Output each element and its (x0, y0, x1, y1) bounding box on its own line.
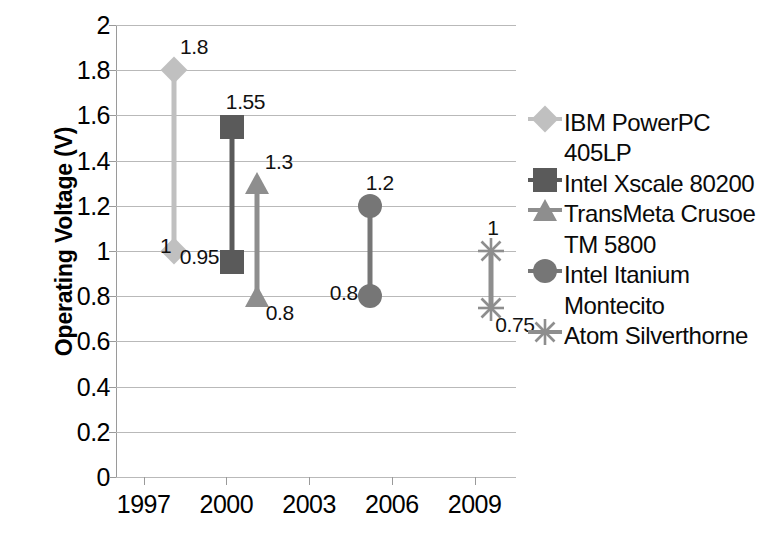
y-tick-mark (109, 251, 116, 252)
circle-marker-icon (533, 259, 557, 283)
data-label: 0.8 (266, 302, 294, 323)
series-range-line (254, 183, 259, 296)
y-tick-label: 0 (58, 465, 110, 490)
y-tick-mark (109, 206, 116, 207)
x-tick-mark (309, 477, 310, 485)
data-label: 1.3 (265, 151, 293, 172)
square-icon (528, 178, 562, 198)
series-range-line (171, 70, 176, 251)
plot-area: 1.811.550.951.30.81.20.810.75 (116, 25, 516, 477)
legend-label: IBM PowerPC 405LP (564, 108, 772, 169)
y-axis-tick-labels: 00.20.40.60.811.21.41.61.82 (50, 0, 110, 552)
data-label: 1 (487, 217, 498, 238)
y-tick-mark (109, 115, 116, 116)
legend-label: Intel Itanium Montecito (564, 260, 772, 321)
y-tick-label: 0.4 (58, 374, 110, 399)
triangle-marker-icon (244, 171, 270, 195)
legend-entry[interactable]: Intel Xscale 80200 (528, 169, 772, 199)
y-tick-mark (109, 161, 116, 162)
x-tick-mark (226, 477, 227, 485)
gridline (116, 432, 516, 433)
y-tick-label: 0.6 (58, 329, 110, 354)
y-tick-mark (109, 70, 116, 71)
gridline (116, 341, 516, 342)
square-marker-icon (220, 115, 244, 139)
y-tick-label: 1 (58, 239, 110, 264)
y-tick-mark (109, 341, 116, 342)
y-tick-label: 1.4 (58, 148, 110, 173)
y-tick-mark (109, 387, 116, 388)
legend-label: TransMeta Crusoe TM 5800 (564, 199, 772, 260)
legend-entry[interactable]: TransMeta Crusoe TM 5800 (528, 199, 772, 260)
asterisk-marker-icon (477, 237, 505, 265)
x-tick-label: 2000 (200, 492, 254, 517)
asterisk-marker-icon (531, 318, 559, 346)
y-tick-label: 0.8 (58, 284, 110, 309)
gridline (116, 387, 516, 388)
x-tick-mark (392, 477, 393, 485)
y-tick-label: 1.6 (58, 103, 110, 128)
x-tick-label: 2003 (282, 492, 336, 517)
data-label: 1 (160, 235, 171, 256)
circle-icon (528, 269, 562, 289)
circle-marker-icon (358, 194, 382, 218)
y-tick-label: 1.8 (58, 58, 110, 83)
y-tick-mark (109, 296, 116, 297)
diamond-icon (528, 117, 562, 137)
asterisk-icon (528, 330, 562, 350)
x-tick-label: 1997 (117, 492, 171, 517)
legend-label: Intel Xscale 80200 (564, 169, 772, 199)
circle-marker-icon (358, 284, 382, 308)
gridline (116, 296, 516, 297)
data-label: 0.8 (330, 282, 358, 303)
y-tick-label: 0.2 (58, 419, 110, 444)
chart-legend: IBM PowerPC 405LPIntel Xscale 80200Trans… (528, 108, 772, 352)
square-marker-icon (220, 250, 244, 274)
x-tick-label: 2009 (448, 492, 502, 517)
triangle-marker-icon (532, 198, 558, 222)
y-tick-label: 1.2 (58, 193, 110, 218)
legend-entry[interactable]: Intel Itanium Montecito (528, 260, 772, 321)
x-tick-mark (144, 477, 145, 485)
y-tick-mark (109, 477, 116, 478)
data-label: 1.8 (180, 36, 208, 57)
x-tick-mark (475, 477, 476, 485)
voltage-scaling-chart: Operating Voltage (V) 00.20.40.60.811.21… (0, 0, 772, 552)
data-label: 1.55 (226, 91, 265, 112)
y-tick-label: 2 (58, 13, 110, 38)
series-range-line (367, 206, 372, 296)
y-tick-mark (109, 432, 116, 433)
legend-entry[interactable]: IBM PowerPC 405LP (528, 108, 772, 169)
diamond-marker-icon (160, 57, 187, 84)
y-tick-mark (109, 25, 116, 26)
x-tick-label: 2006 (365, 492, 419, 517)
triangle-icon (528, 208, 562, 228)
legend-label: Atom Silverthorne (564, 321, 772, 351)
data-label: 1.2 (366, 172, 394, 193)
diamond-marker-icon (532, 106, 559, 133)
data-label: 0.95 (180, 246, 219, 267)
series-range-line (229, 127, 234, 263)
square-marker-icon (533, 168, 557, 192)
gridline (116, 477, 516, 478)
gridline (116, 25, 516, 26)
legend-entry[interactable]: Atom Silverthorne (528, 321, 772, 351)
